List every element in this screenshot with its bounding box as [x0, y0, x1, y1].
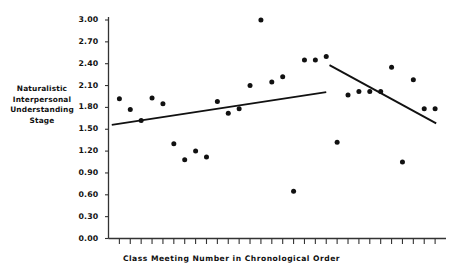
y-tick-label: 2.40	[65, 59, 99, 68]
data-point	[150, 95, 155, 100]
data-point	[422, 106, 427, 111]
data-point	[182, 157, 187, 162]
data-point	[411, 77, 416, 82]
data-point	[313, 58, 318, 63]
y-tick-label: 0.30	[65, 212, 99, 221]
data-point	[400, 160, 405, 165]
data-point	[193, 149, 198, 154]
y-tick-label: 1.50	[65, 124, 99, 133]
y-tick-label: 2.70	[65, 37, 99, 46]
data-point	[269, 79, 274, 84]
y-tick-label: 1.80	[65, 102, 99, 111]
trend-line-ascending-segment	[112, 92, 326, 125]
data-point	[248, 83, 253, 88]
data-point	[258, 18, 263, 23]
scatter-plot-figure: Naturalistic Interpersonal Understanding…	[0, 0, 463, 269]
data-point	[302, 58, 307, 63]
trend-line-descending-segment	[330, 65, 437, 123]
data-point	[215, 99, 220, 104]
data-point	[280, 74, 285, 79]
data-point	[117, 96, 122, 101]
y-tick-label: 2.10	[65, 81, 99, 90]
data-point	[160, 101, 165, 106]
data-point	[139, 118, 144, 123]
data-point	[226, 111, 231, 116]
data-point	[389, 65, 394, 70]
data-point	[335, 140, 340, 145]
y-tick-label: 0.90	[65, 168, 99, 177]
data-point	[291, 189, 296, 194]
y-tick-label: 3.00	[65, 15, 99, 24]
y-tick-label: 0.60	[65, 190, 99, 199]
y-tick-label: 1.20	[65, 146, 99, 155]
data-point	[346, 93, 351, 98]
data-point	[324, 54, 329, 59]
y-tick-label: 0.00	[65, 234, 99, 243]
data-point	[367, 89, 372, 94]
data-point	[204, 154, 209, 159]
data-point	[128, 107, 133, 112]
data-point	[433, 106, 438, 111]
data-point	[356, 89, 361, 94]
data-point	[378, 89, 383, 94]
data-point	[237, 106, 242, 111]
data-point	[171, 141, 176, 146]
